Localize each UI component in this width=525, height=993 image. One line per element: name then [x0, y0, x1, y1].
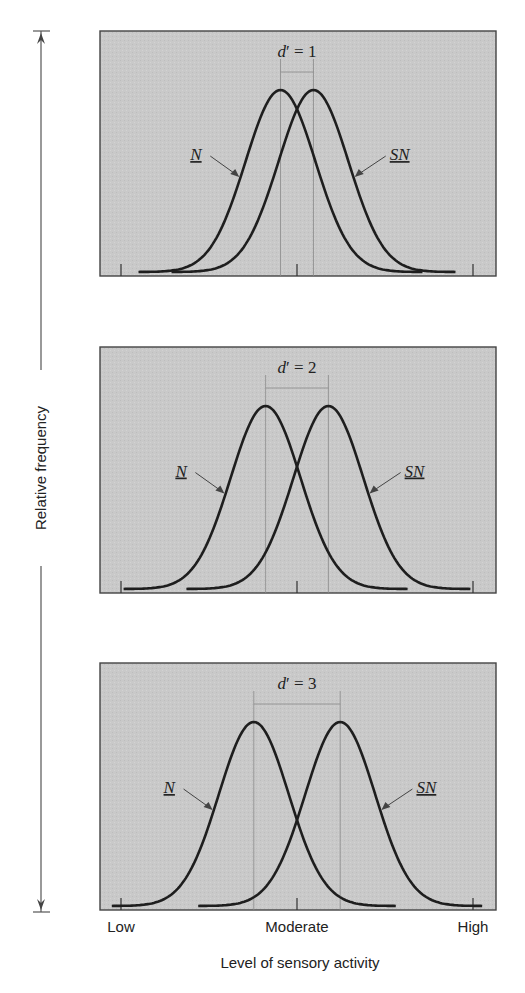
sn-curve-label: SN: [390, 145, 412, 164]
x-tick-label-moderate: Moderate: [265, 918, 328, 935]
signal-detection-figure: Relative frequency d′ = 1NSNd′ = 2NSNd′ …: [0, 0, 525, 993]
d-prime-label: d′ = 3: [278, 674, 317, 693]
y-axis-label: Relative frequency: [32, 405, 49, 530]
x-axis-label: Level of sensory activity: [220, 954, 380, 971]
panel-d-prime-2: d′ = 2NSN: [100, 347, 496, 593]
panel-frame: [100, 663, 496, 910]
x-tick-label-low: Low: [107, 918, 135, 935]
x-tick-label-high: High: [458, 918, 489, 935]
panels: d′ = 1NSNd′ = 2NSNd′ = 3NSN: [100, 31, 496, 910]
n-curve-label: N: [174, 462, 188, 481]
sn-curve-label: SN: [405, 462, 427, 481]
sn-curve-label: SN: [416, 778, 438, 797]
panel-d-prime-1: d′ = 1NSN: [100, 31, 496, 276]
panel-frame: [100, 31, 496, 276]
n-curve-label: N: [163, 778, 177, 797]
panel-d-prime-3: d′ = 3NSN: [100, 663, 496, 910]
d-prime-label: d′ = 2: [278, 358, 317, 377]
n-curve-label: N: [189, 145, 203, 164]
d-prime-label: d′ = 1: [278, 42, 317, 61]
